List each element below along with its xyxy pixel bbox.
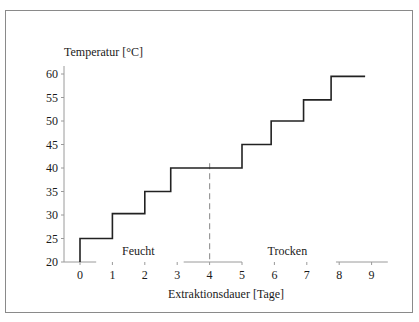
x-tick-label: 5 (239, 268, 245, 282)
x-tick-label: 2 (142, 268, 148, 282)
annotation-trocken: Trocken (268, 244, 308, 258)
y-tick-label: 20 (46, 255, 58, 269)
y-tick-label: 30 (46, 208, 58, 222)
annotation-feucht: Feucht (122, 244, 155, 258)
y-tick-label: 35 (46, 185, 58, 199)
plot-marks: FeuchtTrocken (80, 76, 365, 262)
y-axis-label: Temperatur [°C] (64, 45, 143, 59)
x-axis-label: Extraktionsdauer [Tage] (168, 287, 284, 301)
x-tick-label: 0 (77, 268, 83, 282)
x-tick-label: 6 (271, 268, 277, 282)
x-tick-label: 9 (369, 268, 375, 282)
x-tick-label: 4 (207, 268, 213, 282)
y-tick-label: 25 (46, 232, 58, 246)
y-tick-label: 50 (46, 114, 58, 128)
x-tick-label: 7 (304, 268, 310, 282)
axes: 2025303540455055600123456789 (46, 66, 388, 282)
y-tick-label: 55 (46, 91, 58, 105)
x-tick-label: 8 (336, 268, 342, 282)
y-tick-label: 45 (46, 138, 58, 152)
temperature-step-line (80, 76, 365, 262)
x-tick-label: 3 (174, 268, 180, 282)
y-tick-label: 60 (46, 67, 58, 81)
x-tick-label: 1 (109, 268, 115, 282)
y-tick-label: 40 (46, 161, 58, 175)
step-chart: Temperatur [°C] Extraktionsdauer [Tage] … (0, 0, 419, 322)
